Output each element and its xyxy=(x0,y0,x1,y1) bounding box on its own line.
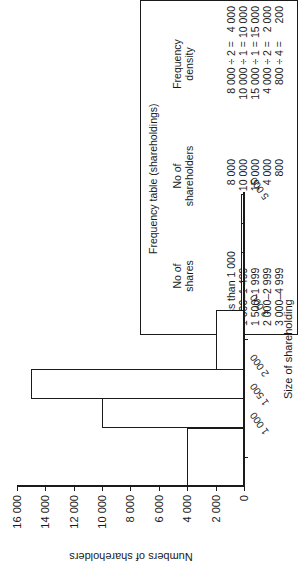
cell-density: 8 000 ÷ 2 = 4 000 xyxy=(225,6,237,144)
x-tick-label: 1 000 xyxy=(248,410,271,437)
bar-2000-3000 xyxy=(216,310,244,370)
y-tick xyxy=(74,486,75,491)
y-tick xyxy=(244,486,245,491)
header-shareholders: No of shareholders xyxy=(171,136,195,216)
cell-holders: 800 xyxy=(273,159,285,204)
x-axis-title: Size of shareholding xyxy=(282,299,294,399)
y-tick xyxy=(159,486,160,491)
y-tick xyxy=(187,486,188,491)
y-tick-label: 8 000 xyxy=(124,495,136,535)
header-shares: No of shares xyxy=(171,246,195,306)
bar-0-1000 xyxy=(187,428,244,487)
x-tick xyxy=(244,339,248,340)
y-tick-label: 4 000 xyxy=(181,495,193,535)
x-tick-label: 2 000 xyxy=(248,352,271,379)
header-density: Frequency density xyxy=(171,29,195,99)
bar-1500-2000 xyxy=(31,369,244,399)
bar-1000-1500 xyxy=(102,398,244,428)
cell-holders: 8 000 xyxy=(225,159,237,204)
y-tick-label: 12 000 xyxy=(68,495,80,535)
cell-density: 15 000 ÷ 1 = 15 000 xyxy=(249,6,261,144)
y-tick xyxy=(216,486,217,491)
y-tick xyxy=(130,486,131,491)
y-tick-label: 6 000 xyxy=(153,495,165,535)
y-tick-label: 10 000 xyxy=(96,495,108,535)
table-title: Frequency table (shareholdings) xyxy=(147,103,159,254)
frequency-table: Frequency table (shareholdings) No of sh… xyxy=(140,0,298,335)
y-tick xyxy=(17,486,18,491)
rotated-figure: Frequency table (shareholdings) No of sh… xyxy=(0,0,303,569)
y-tick xyxy=(102,486,103,491)
x-tick xyxy=(244,457,248,458)
cell-density: 10 000 ÷ 1 = 10 000 xyxy=(237,6,249,144)
cell-density: 4 000 ÷ 2 = 2 000 xyxy=(261,6,273,144)
y-tick-label: 2 000 xyxy=(210,495,222,535)
x-tick-label: 1 500 xyxy=(248,381,271,408)
y-tick xyxy=(45,486,46,491)
y-tick-label: 16 000 xyxy=(11,495,23,535)
y-tick-label: 14 000 xyxy=(39,495,51,535)
y-axis-title: Numbers of shareholders xyxy=(61,551,201,563)
y-tick-label: 0 xyxy=(238,495,250,535)
cell-density: 800 ÷ 4 = 200 xyxy=(273,6,285,144)
